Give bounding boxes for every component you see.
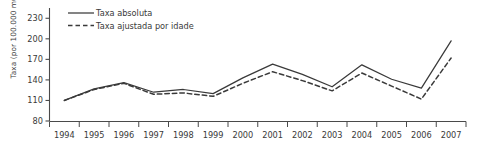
x-tick-label: 2001 <box>262 130 283 140</box>
x-tick-label: 1994 <box>54 130 75 140</box>
x-axis-ticks: 1994199519961997199819992000200120022003… <box>50 122 467 141</box>
x-tick-label: 2003 <box>322 130 343 140</box>
y-tick-label: 140 <box>27 75 43 85</box>
y-tick-label: 80 <box>33 116 43 126</box>
chart-legend: Taxa absolutaTaxa ajustada por idade <box>68 8 194 31</box>
x-tick-label: 2006 <box>411 130 432 140</box>
y-axis-ticks: 80110140170200230 <box>27 13 49 126</box>
x-tick-label: 2007 <box>441 130 462 140</box>
x-tick-label: 1997 <box>143 130 164 140</box>
line-chart: 80110140170200230 1994199519961997199819… <box>0 0 484 148</box>
series-group <box>64 41 451 101</box>
x-tick-label: 1998 <box>173 130 194 140</box>
series-line-0 <box>64 41 451 101</box>
x-tick-label: 2005 <box>381 130 402 140</box>
x-tick-label: 1995 <box>84 130 105 140</box>
x-tick-label: 2004 <box>351 130 372 140</box>
y-tick-label: 200 <box>27 34 43 44</box>
y-tick-label: 110 <box>27 95 43 105</box>
legend-label-0: Taxa absoluta <box>95 8 152 18</box>
x-tick-label: 1999 <box>203 130 224 140</box>
y-tick-label: 170 <box>27 54 43 64</box>
x-tick-label: 1996 <box>113 130 134 140</box>
y-axis-title: Taxa (por 100.000 mulheres) <box>9 0 18 85</box>
x-tick-label: 2002 <box>292 130 313 140</box>
legend-label-1: Taxa ajustada por idade <box>95 21 194 31</box>
x-tick-label: 2000 <box>232 130 253 140</box>
y-tick-label: 230 <box>27 13 43 23</box>
chart-container: Taxa (por 100.000 mulheres) 801101401702… <box>0 0 484 148</box>
